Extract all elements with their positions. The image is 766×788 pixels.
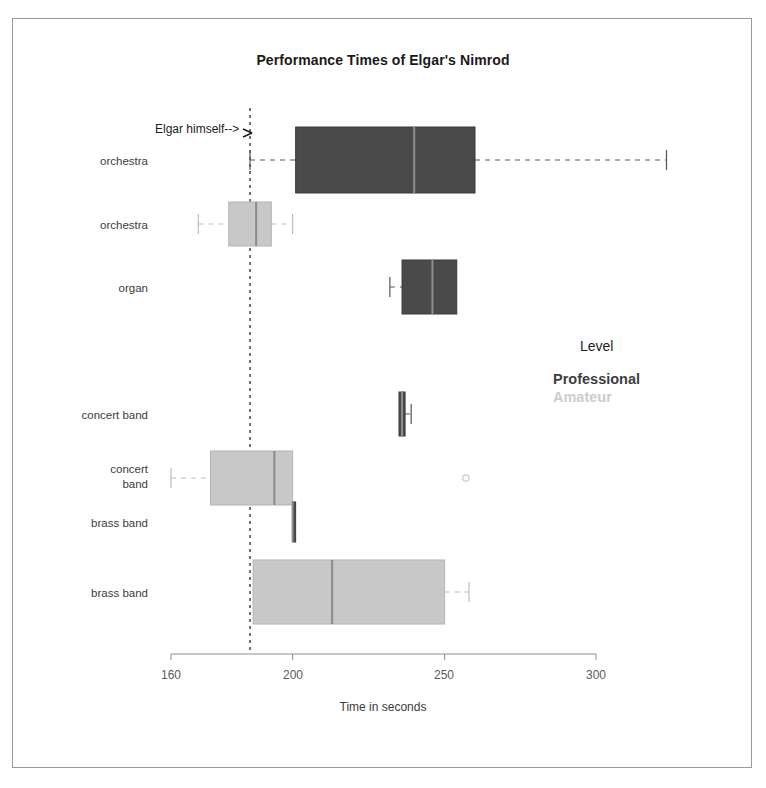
boxplot-canvas — [0, 0, 766, 788]
